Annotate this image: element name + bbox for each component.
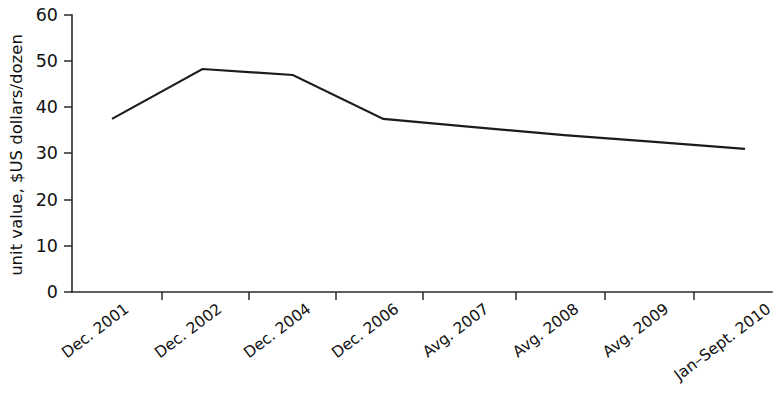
x-tick-label-avg-2007: Avg. 2007 [419, 300, 492, 361]
y-axis-tick-labels: 60 50 40 30 20 10 0 [36, 5, 58, 302]
x-tick-label-jan-sept-2010: Jan–Sept. 2010 [670, 300, 774, 385]
x-tick-label-dec-2006: Dec. 2006 [328, 300, 402, 362]
y-tick-label-0: 0 [47, 282, 58, 302]
y-tick-label-40: 40 [36, 97, 58, 117]
y-axis-ticks [64, 15, 72, 292]
y-axis-title: unit value, $US dollars/dozen [7, 34, 26, 276]
data-series-line [112, 69, 745, 149]
x-axis-ticks [162, 292, 694, 300]
line-chart-figure: unit value, $US dollars/dozen 60 50 40 [0, 0, 780, 405]
y-tick-label-50: 50 [36, 51, 58, 71]
y-tick-label-20: 20 [36, 190, 58, 210]
y-tick-label-60: 60 [36, 5, 58, 25]
x-tick-label-dec-2001: Dec. 2001 [58, 300, 132, 362]
x-axis-tick-labels: Dec. 2001 Dec. 2002 Dec. 2004 Dec. 2006 … [58, 300, 774, 385]
chart-canvas: unit value, $US dollars/dozen 60 50 40 [0, 0, 780, 405]
x-tick-label-dec-2002: Dec. 2002 [151, 300, 225, 362]
x-tick-label-dec-2004: Dec. 2004 [240, 300, 314, 362]
chart-page: unit value, $US dollars/dozen 60 50 40 [0, 0, 780, 405]
x-tick-label-avg-2008: Avg. 2008 [509, 300, 582, 361]
x-tick-label-avg-2009: Avg. 2009 [599, 300, 672, 361]
y-tick-label-10: 10 [36, 236, 58, 256]
y-tick-label-30: 30 [36, 143, 58, 163]
